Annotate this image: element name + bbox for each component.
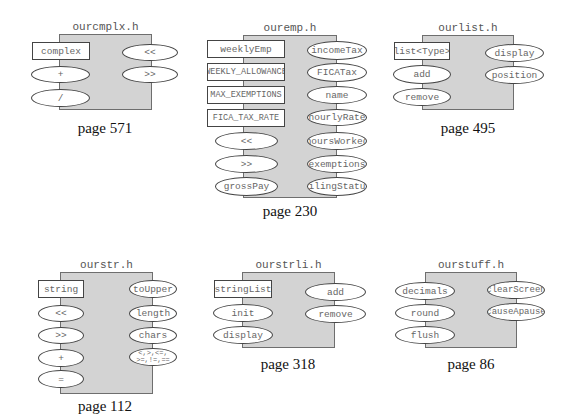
page-reference: page 571 xyxy=(55,120,155,136)
class-rect-list: list<Type> xyxy=(394,42,450,60)
function-ellipse-assign: = xyxy=(38,370,84,388)
function-ellipse-extract: >> xyxy=(215,155,278,173)
function-ellipse-plus: + xyxy=(31,66,90,83)
function-ellipse-divide: / xyxy=(31,89,90,107)
function-ellipse-decimals: decimals xyxy=(395,282,455,300)
module-title: ourcmplx.h xyxy=(59,21,152,33)
function-ellipse-hoursworked: hoursWorked xyxy=(307,132,367,150)
page-reference: page 230 xyxy=(240,203,340,219)
function-ellipse-comparison-operators: <,>,<=, >=,!=,== xyxy=(129,348,177,366)
function-ellipse-add: add xyxy=(305,283,366,301)
class-rect-string: string xyxy=(38,280,84,298)
module-title: ourstrli.h xyxy=(242,259,335,271)
function-ellipse-display: display xyxy=(213,326,273,344)
class-rect-complex: complex xyxy=(32,42,90,60)
module-title: ourlist.h xyxy=(422,22,514,34)
module-title: ourstr.h xyxy=(60,259,153,271)
function-ellipse-round: round xyxy=(395,304,455,322)
function-ellipse-hourlyrate: hourlyRate xyxy=(307,109,367,126)
function-ellipse-incometax: incomeTax xyxy=(307,41,367,60)
function-ellipse-toupper: toUpper xyxy=(129,280,177,298)
function-ellipse-remove: remove xyxy=(305,305,366,323)
page-reference: page 86 xyxy=(421,356,521,372)
function-ellipse-init: init xyxy=(213,304,273,322)
function-ellipse-flush: flush xyxy=(395,326,455,344)
module-title: ouremp.h xyxy=(243,22,337,34)
function-ellipse-insert: << xyxy=(38,305,84,322)
class-rect-weeklyemp: weeklyEmp xyxy=(207,40,285,58)
function-ellipse-length: length xyxy=(129,305,177,322)
function-ellipse-add: add xyxy=(393,65,451,84)
function-ellipse-causeapause: causeApause xyxy=(487,303,545,321)
constant-rect-fica-tax-rate: FICA_TAX_RATE xyxy=(207,109,285,127)
header-files-diagram: ourcmplx.h complex + / << >> page 571 ou… xyxy=(0,0,577,414)
function-ellipse-extract: >> xyxy=(38,327,84,344)
page-reference: page 112 xyxy=(55,398,155,414)
function-ellipse-extract: >> xyxy=(122,66,178,83)
module-title: ourstuff.h xyxy=(425,259,517,271)
function-ellipse-filingstatus: filingStatus xyxy=(307,177,367,196)
function-ellipse-insert: << xyxy=(215,132,278,150)
page-reference: page 495 xyxy=(418,120,518,136)
constant-rect-weekly-allowance: WEEKLY_ALLOWANCE xyxy=(207,63,285,81)
function-ellipse-grosspay: grossPay xyxy=(215,177,278,196)
function-ellipse-ficatax: FICATax xyxy=(307,63,367,82)
function-ellipse-position: position xyxy=(485,66,544,84)
function-ellipse-clearscreen: clearScreen xyxy=(487,281,545,299)
function-ellipse-remove: remove xyxy=(393,88,451,106)
function-ellipse-plus: + xyxy=(38,349,84,367)
function-ellipse-display: display xyxy=(485,44,544,62)
function-ellipse-name: name xyxy=(307,86,367,104)
page-reference: page 318 xyxy=(238,356,338,372)
function-ellipse-insert: << xyxy=(122,44,178,61)
constant-rect-max-exemptions: MAX_EXEMPTIONS xyxy=(207,86,285,104)
function-ellipse-exemptions: exemptions xyxy=(307,155,367,173)
function-ellipse-chars: chars xyxy=(129,327,177,344)
class-rect-stringlist: stringList xyxy=(214,280,272,298)
